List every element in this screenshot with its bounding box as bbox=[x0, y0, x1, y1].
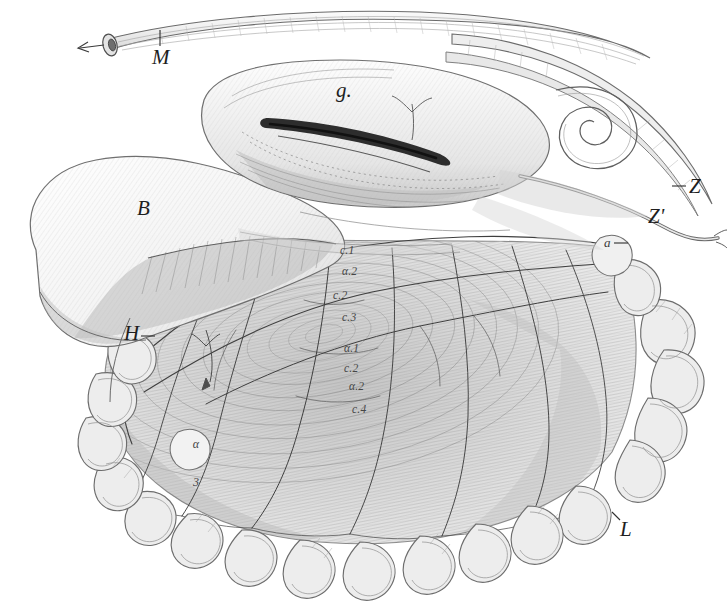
label-c2-upper: c.2 bbox=[333, 290, 347, 302]
label-H: H bbox=[124, 323, 139, 344]
label-M: M bbox=[152, 47, 170, 68]
leader-L bbox=[612, 512, 620, 520]
label-L: L bbox=[620, 519, 632, 540]
label-B: B bbox=[137, 198, 150, 219]
anatomical-plate: M g. B H Z Z' L a c.1 α.2 c.2 c.3 α.1 c.… bbox=[0, 0, 727, 613]
label-Z: Z bbox=[689, 176, 701, 197]
label-c3: c.3 bbox=[342, 312, 356, 324]
label-alpha3-line2: 3 bbox=[190, 476, 202, 489]
label-leader-lines bbox=[0, 0, 727, 613]
label-c1: c.1 bbox=[340, 245, 354, 257]
label-c2-lower: c.2 bbox=[344, 363, 358, 375]
label-alpha2-lower: α.2 bbox=[349, 381, 364, 393]
label-alpha3: α 3 bbox=[190, 413, 202, 514]
label-Z-prime: Z' bbox=[648, 206, 664, 227]
label-alpha1: α.1 bbox=[344, 343, 359, 355]
label-c4: c.4 bbox=[352, 404, 366, 416]
label-alpha2-upper: α.2 bbox=[342, 266, 357, 278]
label-a: a bbox=[604, 236, 611, 249]
label-g: g. bbox=[336, 80, 352, 101]
label-alpha3-line1: α bbox=[190, 438, 202, 451]
